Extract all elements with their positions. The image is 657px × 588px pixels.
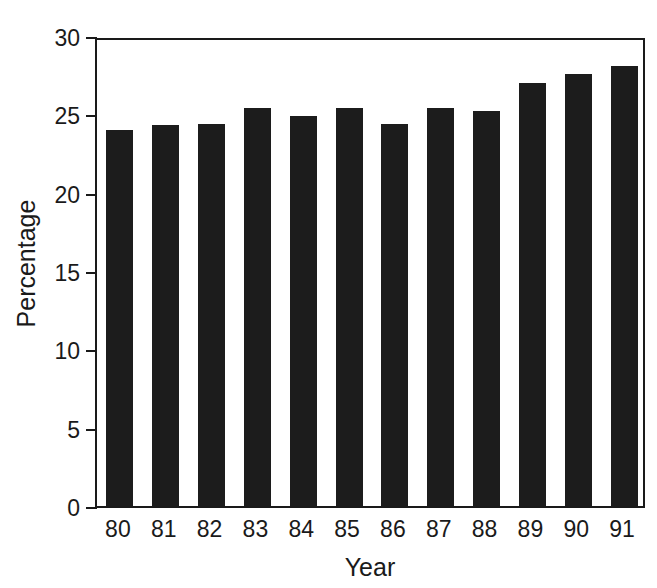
- x-tick-label: 86: [370, 516, 416, 543]
- y-tick-label: 25: [34, 105, 80, 128]
- x-tick-label: 87: [416, 516, 462, 543]
- bar: [244, 108, 271, 506]
- x-tick-label: 82: [187, 516, 233, 543]
- chart-figure: Percentage 051015202530 8081828384858687…: [0, 0, 657, 588]
- x-tick-label: 89: [507, 516, 553, 543]
- bar: [106, 130, 133, 506]
- bar: [519, 83, 546, 506]
- x-tick-label: 88: [462, 516, 508, 543]
- bar: [336, 108, 363, 506]
- y-tick-label: 30: [34, 27, 80, 50]
- x-tick-label: 83: [232, 516, 278, 543]
- x-axis-title: Year: [95, 553, 645, 582]
- x-tick-label: 81: [141, 516, 187, 543]
- y-tick-label: 10: [34, 340, 80, 363]
- x-tick-label: 84: [278, 516, 324, 543]
- x-tick-label: 90: [553, 516, 599, 543]
- x-tick-label: 91: [599, 516, 645, 543]
- bar: [427, 108, 454, 506]
- y-tick-label: 5: [34, 418, 80, 441]
- bar: [565, 74, 592, 506]
- bar: [611, 66, 638, 506]
- y-tick-label: 20: [34, 183, 80, 206]
- y-tick-label: 15: [34, 262, 80, 285]
- bar: [381, 124, 408, 506]
- x-tick-label: 80: [95, 516, 141, 543]
- bar: [198, 124, 225, 506]
- plot-area: [95, 38, 645, 508]
- y-tick-label: 0: [34, 497, 80, 520]
- x-tick-label: 85: [324, 516, 370, 543]
- bar: [473, 111, 500, 506]
- bar: [152, 125, 179, 506]
- bar: [290, 116, 317, 506]
